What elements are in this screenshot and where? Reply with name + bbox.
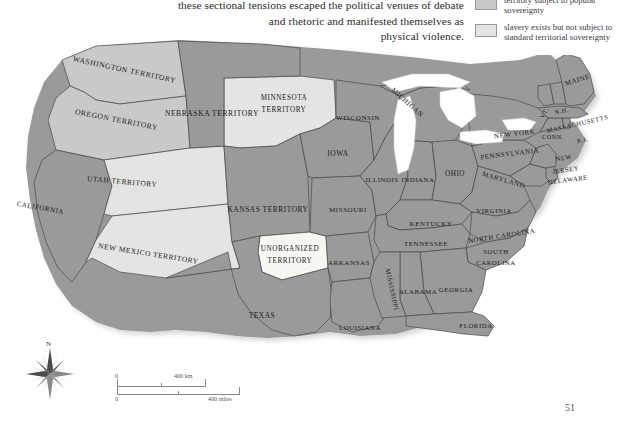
label-minnesota-territory-line1: MINNESOTA xyxy=(261,94,308,102)
label-texas: TEXAS xyxy=(249,311,276,320)
label-south-carolina-line2: CAROLINA xyxy=(476,259,516,266)
label-minnesota-territory-line2: TERRITORY xyxy=(262,106,307,114)
legend-swatch-special-sovereignty xyxy=(475,24,497,37)
legend-label-special-sovereignty: slavery exists but not subject to standa… xyxy=(504,23,624,42)
label-unorganized-territory-line1: UNORGANIZED xyxy=(261,245,319,253)
scale-km-label: 400 km xyxy=(174,373,192,379)
scale-miles-tick-start xyxy=(117,387,118,395)
label-tennessee: TENNESSEE xyxy=(404,240,448,248)
map-canvas: WASHINGTON TERRITORY OREGON TERRITORY CA… xyxy=(0,0,624,421)
body-paragraph: these sectional tensions escaped the pol… xyxy=(112,0,464,45)
label-arkansas: ARKANSAS xyxy=(328,259,370,267)
label-virginia: VIRGINIA xyxy=(476,207,511,214)
scale-miles-tick-end xyxy=(239,387,240,395)
label-georgia: GEORGIA xyxy=(439,286,473,293)
region-kansas-territory xyxy=(224,134,310,242)
label-alabama: ALABAMA xyxy=(399,288,437,295)
label-florida: FLORIDA xyxy=(459,322,492,329)
label-illinois: ILLINOIS xyxy=(365,176,398,183)
legend-swatch-popular-sovereignty xyxy=(475,0,497,10)
scale-km-tick-start xyxy=(117,379,118,387)
legend-label-popular-sovereignty: territory subject to popular sovereignty xyxy=(504,0,624,16)
scale-km-tick-end xyxy=(205,379,206,387)
scale-km-zero-label: 0 xyxy=(115,373,118,379)
label-connecticut: CONN. xyxy=(542,133,564,140)
compass-north-label: N xyxy=(46,340,51,348)
label-nebraska-territory: NEBRASKA TERRITORY xyxy=(165,109,259,118)
body-line-1: these sectional tensions escaped the pol… xyxy=(112,0,464,14)
label-unorganized-territory-line2: TERRITORY xyxy=(268,257,313,265)
region-arkansas xyxy=(326,232,374,282)
label-kentucky: KENTUCKY xyxy=(410,220,453,228)
scale-bar: 0 400 km 0 400 miles xyxy=(112,373,237,399)
compass-star-icon xyxy=(24,342,80,400)
page-number: 51 xyxy=(565,402,575,413)
label-louisiana: LOUISIANA xyxy=(339,324,381,331)
map-legend: area in free state later open to slavery… xyxy=(471,0,624,55)
scale-km-tick-mid xyxy=(161,383,162,387)
scale-miles-label: 400 miles xyxy=(208,396,232,402)
label-south-carolina-line1: SOUTH xyxy=(483,248,508,255)
us-map-1854-svg: WASHINGTON TERRITORY OREGON TERRITORY CA… xyxy=(0,0,624,421)
body-line-2: and rhetoric and manifested themselves a… xyxy=(112,14,464,30)
scale-miles-zero-label: 0 xyxy=(115,396,118,402)
scale-miles-tick-mid xyxy=(178,391,179,395)
label-kansas-territory: KANSAS TERRITORY xyxy=(227,205,308,214)
legend-item-special-sovereignty: slavery exists but not subject to standa… xyxy=(475,23,624,42)
label-iowa: IOWA xyxy=(327,149,349,158)
body-line-3: physical violence. xyxy=(112,29,464,45)
label-wisconsin: WISCONSIN xyxy=(336,114,380,122)
label-ohio: OHIO xyxy=(445,170,465,178)
compass-rose: N xyxy=(24,342,80,402)
label-rhode-island: R.I. xyxy=(576,135,589,144)
legend-item-popular-sovereignty: territory subject to popular sovereignty xyxy=(475,0,624,16)
label-indiana: INDIANA xyxy=(402,176,435,183)
label-missouri: MISSOURI xyxy=(329,206,367,214)
